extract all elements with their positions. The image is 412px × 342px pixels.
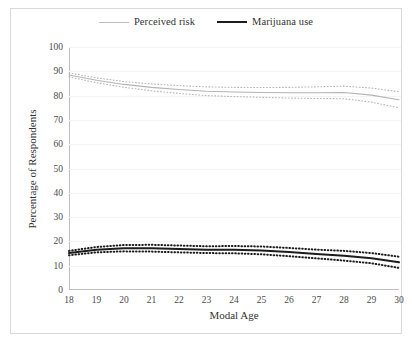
legend-item-perceived-risk: Perceived risk — [99, 17, 195, 28]
y-axis-title-text: Percentage of Respondents — [26, 109, 38, 228]
legend-label: Perceived risk — [134, 17, 195, 28]
x-tick-label: 29 — [367, 295, 377, 305]
x-tick-label: 26 — [284, 295, 294, 305]
chart-figure: Perceived risk Marijuana use Percentage … — [10, 8, 402, 334]
y-tick-label: 80 — [54, 91, 64, 101]
x-tick-label: 23 — [202, 295, 212, 305]
x-tick-label: 19 — [92, 295, 102, 305]
x-tick-label: 21 — [147, 295, 157, 305]
y-tick-label: 90 — [54, 66, 64, 76]
y-tick-label: 10 — [54, 261, 64, 271]
plot-area: 1009080706050403020100 18192021222324252… — [69, 47, 399, 290]
confidence-band-upper — [69, 245, 399, 257]
series-layer — [69, 47, 399, 290]
confidence-band-lower — [69, 251, 399, 268]
y-tick-label: 20 — [54, 236, 64, 246]
x-axis-title: Modal Age — [69, 309, 399, 321]
chart-legend: Perceived risk Marijuana use — [11, 17, 401, 28]
x-tick-label: 20 — [119, 295, 129, 305]
legend-item-marijuana-use: Marijuana use — [217, 17, 313, 28]
series-line — [69, 248, 399, 262]
legend-line-swatch-icon — [99, 22, 129, 23]
y-tick-label: 70 — [54, 115, 64, 125]
x-tick-label: 27 — [312, 295, 322, 305]
x-tick-label: 25 — [257, 295, 267, 305]
x-tick-label: 18 — [64, 295, 74, 305]
y-axis-title: Percentage of Respondents — [25, 47, 39, 290]
legend-label: Marijuana use — [252, 17, 313, 28]
x-tick-label: 22 — [174, 295, 184, 305]
confidence-band-upper — [69, 73, 399, 92]
y-tick-label: 0 — [58, 285, 63, 295]
y-tick-label: 40 — [54, 188, 64, 198]
x-tick-label: 24 — [229, 295, 239, 305]
x-tick-label: 30 — [394, 295, 404, 305]
y-tick-label: 30 — [54, 212, 64, 222]
y-tick-label: 60 — [54, 139, 64, 149]
y-tick-label: 100 — [49, 42, 63, 52]
legend-line-swatch-icon — [217, 21, 247, 23]
y-tick-label: 50 — [54, 164, 64, 174]
x-tick-label: 28 — [339, 295, 349, 305]
